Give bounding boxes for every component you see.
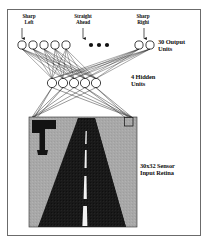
object-canopy (32, 120, 56, 129)
output-unit-node (18, 41, 26, 49)
output-unit-node (51, 41, 59, 49)
label-sharp-right-line2: Righi (137, 19, 149, 25)
label-output-units: 30 Output Units (158, 39, 208, 53)
label-straight-ahead-line2: Ahead (76, 19, 90, 25)
ellipsis-dot (97, 43, 101, 47)
label-hidden-units-line2: Units (131, 80, 145, 87)
hidden-unit-node (80, 78, 89, 87)
connections-hidden-to-retina (32, 88, 134, 121)
hidden-unit-node (47, 78, 56, 87)
label-retina-line2: Input Retina (140, 169, 174, 176)
label-sensor-input-retina: 30x32 Sensor Input Retina (140, 163, 202, 177)
output-unit-node (146, 41, 154, 49)
label-output-units-line2: Units (158, 45, 172, 52)
sensor-input-retina (29, 117, 137, 227)
network-diagram (0, 0, 212, 245)
ellipsis-dot (105, 43, 109, 47)
output-unit-nodes (18, 41, 154, 49)
label-straight-ahead: Straight Ahead (66, 14, 100, 25)
output-unit-node (40, 41, 48, 49)
hidden-unit-nodes (47, 78, 100, 87)
lane-dash (82, 206, 87, 226)
output-unit-node (135, 41, 143, 49)
label-sharp-left-line2: Left (25, 19, 34, 25)
ellipsis-dot (89, 43, 93, 47)
hidden-unit-node (69, 78, 78, 87)
output-unit-node (62, 41, 70, 49)
hidden-unit-node (58, 78, 67, 87)
object-base (37, 150, 48, 155)
label-hidden-units: 4 Hidden Units (131, 74, 177, 88)
hidden-unit-node (91, 78, 100, 87)
steering-direction-arrows (22, 28, 144, 39)
figure-root: Sharp Left Straight Ahead Sharp Righi 30… (0, 0, 212, 245)
output-unit-node (29, 41, 37, 49)
object-trunk (40, 129, 46, 150)
output-units-ellipsis (89, 43, 109, 47)
label-sharp-right: Sharp Righi (130, 14, 156, 25)
label-sharp-left: Sharp Left (16, 14, 42, 25)
